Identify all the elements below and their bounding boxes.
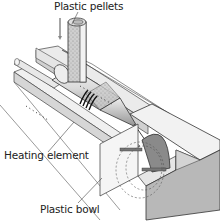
diagram-illustration [0,0,220,223]
label-plastic-pellets: Plastic pellets [54,0,123,12]
label-heating-element: Heating element [4,149,89,161]
mould-block [100,104,220,220]
label-plastic-bowl: Plastic bowl [40,203,100,215]
injection-moulding-diagram: Plastic pellets Heating element Plastic … [0,0,220,223]
